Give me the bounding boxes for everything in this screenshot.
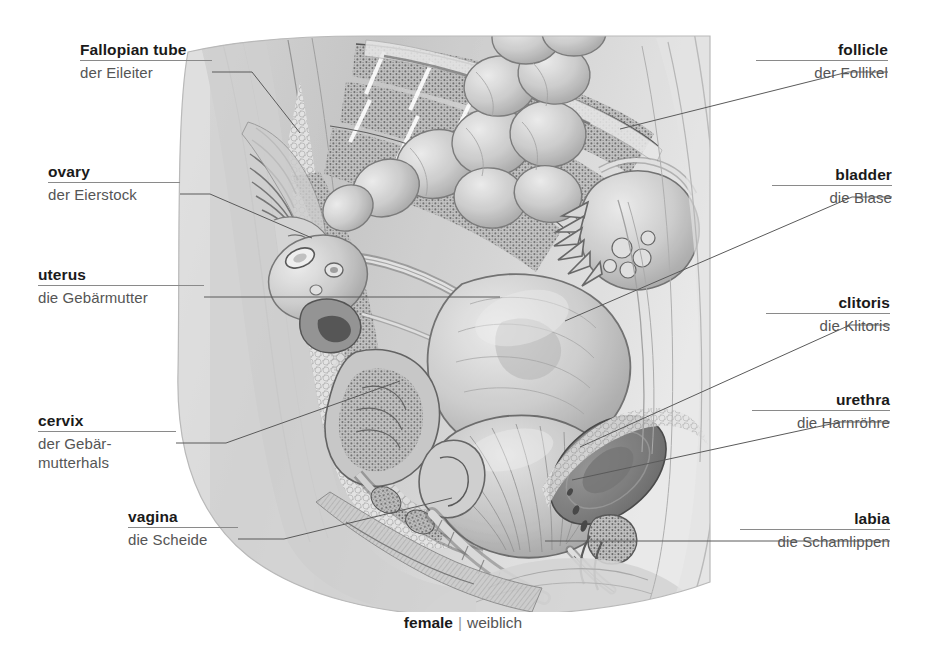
label-rule [38,285,204,286]
label-bladder[interactable]: bladder die Blase [772,165,892,207]
label-en: clitoris [766,293,890,312]
label-rule [752,410,890,411]
label-en: ovary [48,162,180,181]
label-urethra[interactable]: urethra die Harnröhre [752,390,890,432]
label-de-line2: mutterhals [38,453,176,472]
label-rule [756,60,888,61]
label-en: urethra [752,390,890,409]
diagram-canvas: Fallopian tube der Eileiter ovary der Ei… [0,0,926,652]
label-rule [772,185,892,186]
label-rule [48,182,180,183]
label-en: labia [740,509,890,528]
label-cervix[interactable]: cervix der Gebär- mutterhals [38,411,176,472]
caption-de: weiblich [467,614,522,631]
caption-separator: | [453,614,467,631]
label-labia[interactable]: labia die Schamlippen [740,509,890,551]
label-ovary[interactable]: ovary der Eierstock [48,162,180,204]
label-rule [740,529,890,530]
label-en: follicle [756,40,888,59]
caption-en: female [404,614,453,631]
label-rule [128,527,238,528]
label-de: der Eileiter [80,63,212,82]
label-de: die Harnröhre [752,413,890,432]
label-de: die Scheide [128,530,238,549]
diagram-caption: female|weiblich [0,613,926,633]
label-vagina[interactable]: vagina die Scheide [128,507,238,549]
label-de: der Follikel [756,63,888,82]
label-fallopian-tube[interactable]: Fallopian tube der Eileiter [80,40,212,82]
label-en: vagina [128,507,238,526]
label-follicle[interactable]: follicle der Follikel [756,40,888,82]
label-uterus[interactable]: uterus die Gebärmutter [38,265,204,307]
label-en: uterus [38,265,204,284]
label-en: bladder [772,165,892,184]
label-de: der Eierstock [48,185,180,204]
label-de: die Schamlippen [740,532,890,551]
anatomy-illustration [170,22,730,612]
label-de: der Gebär- [38,434,176,453]
label-de: die Gebärmutter [38,288,204,307]
label-rule [80,60,212,61]
label-clitoris[interactable]: clitoris die Klitoris [766,293,890,335]
label-en: Fallopian tube [80,40,212,59]
label-rule [38,431,176,432]
label-de: die Klitoris [766,316,890,335]
label-rule [766,313,890,314]
label-de: die Blase [772,188,892,207]
label-en: cervix [38,411,176,430]
